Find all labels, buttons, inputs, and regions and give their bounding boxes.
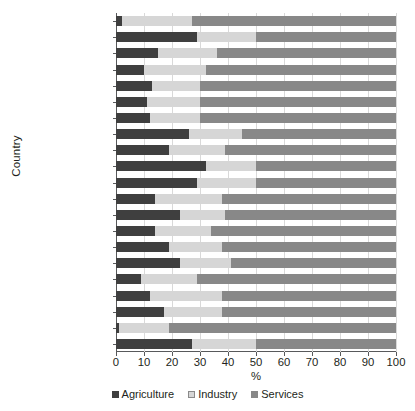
bar-row <box>116 161 396 171</box>
bar-segment-industry <box>197 178 256 188</box>
bar-segment-services <box>256 161 396 171</box>
legend-item-industry: Industry <box>188 388 237 400</box>
x-axis-tick-label: 100 <box>376 356 415 368</box>
bar-row <box>116 48 396 58</box>
bar-row <box>116 65 396 75</box>
bar-segment-services <box>256 178 396 188</box>
bar-segment-agriculture <box>116 145 169 155</box>
bar-row <box>116 16 396 26</box>
bar-row <box>116 97 396 107</box>
bar-segment-industry <box>122 16 192 26</box>
bar-segment-industry <box>192 339 256 349</box>
bar-segment-industry <box>169 145 225 155</box>
y-axis-tick <box>113 150 117 151</box>
y-axis-tick <box>113 86 117 87</box>
y-axis-tick <box>113 279 117 280</box>
y-axis-tick <box>113 183 117 184</box>
bar-segment-agriculture <box>116 226 155 236</box>
bar-segment-agriculture <box>116 65 144 75</box>
stacked-bar-chart: Country ArgentinaBoliviaBrazilChileColom… <box>0 0 415 411</box>
bar-segment-industry <box>180 210 225 220</box>
y-axis-tick <box>113 231 117 232</box>
y-axis-tick <box>113 21 117 22</box>
bar-segment-agriculture <box>116 129 189 139</box>
bar-row <box>116 226 396 236</box>
y-axis-tick <box>113 37 117 38</box>
y-axis-tick <box>113 328 117 329</box>
bar-segment-industry <box>155 194 222 204</box>
bar-row <box>116 307 396 317</box>
bar-row <box>116 339 396 349</box>
bar-segment-services <box>206 65 396 75</box>
bar-segment-agriculture <box>116 242 169 252</box>
bar-segment-services <box>231 258 396 268</box>
bar-segment-services <box>200 97 396 107</box>
y-axis-tick <box>113 344 117 345</box>
y-axis-tick <box>113 70 117 71</box>
bar-segment-agriculture <box>116 274 141 284</box>
bar-segment-services <box>222 307 396 317</box>
bar-row <box>116 323 396 333</box>
y-axis-tick <box>113 296 117 297</box>
bar-segment-services <box>200 113 396 123</box>
bar-segment-services <box>225 145 396 155</box>
bar-segment-services <box>256 339 396 349</box>
bar-segment-agriculture <box>116 291 150 301</box>
gridline <box>396 13 397 352</box>
bar-segment-industry <box>155 226 211 236</box>
bar-segment-agriculture <box>116 178 197 188</box>
y-axis-tick <box>113 118 117 119</box>
bar-row <box>116 291 396 301</box>
legend-swatch-services <box>251 391 258 398</box>
legend-item-services: Services <box>251 388 303 400</box>
bar-segment-industry <box>144 65 206 75</box>
y-axis-tick <box>113 166 117 167</box>
bar-segment-agriculture <box>116 210 180 220</box>
bar-segment-services <box>242 129 396 139</box>
bar-row <box>116 178 396 188</box>
y-axis-tick <box>113 53 117 54</box>
bar-segment-industry <box>152 81 200 91</box>
bar-segment-services <box>200 81 396 91</box>
legend-swatch-agriculture <box>112 391 119 398</box>
bar-segment-agriculture <box>116 307 164 317</box>
bar-segment-agriculture <box>116 339 192 349</box>
bar-row <box>116 242 396 252</box>
bar-row <box>116 258 396 268</box>
bar-segment-services <box>222 242 396 252</box>
y-axis-tick <box>113 134 117 135</box>
bar-segment-industry <box>180 258 230 268</box>
x-axis-title: % <box>116 370 396 382</box>
bar-segment-services <box>192 16 396 26</box>
bar-segment-services <box>211 226 396 236</box>
bar-segment-agriculture <box>116 194 155 204</box>
bar-row <box>116 113 396 123</box>
y-axis-tick <box>113 247 117 248</box>
bar-row <box>116 32 396 42</box>
bar-segment-industry <box>147 97 200 107</box>
bar-row <box>116 145 396 155</box>
y-axis-tick <box>113 215 117 216</box>
bar-segment-agriculture <box>116 81 152 91</box>
bar-segment-agriculture <box>116 48 158 58</box>
bar-rows: ArgentinaBoliviaBrazilChileColombiaCosta… <box>116 13 396 352</box>
bar-row <box>116 194 396 204</box>
legend-item-agriculture: Agriculture <box>112 388 175 400</box>
y-axis-title: Country <box>10 116 22 196</box>
bar-segment-industry <box>206 161 256 171</box>
bar-segment-industry <box>197 32 256 42</box>
chart-legend: Agriculture Industry Services <box>0 388 415 400</box>
bar-segment-services <box>256 32 396 42</box>
bar-segment-industry <box>150 291 223 301</box>
bar-segment-agriculture <box>116 32 197 42</box>
y-axis-tick <box>113 263 117 264</box>
bar-segment-services <box>169 323 396 333</box>
legend-label-services: Services <box>261 388 303 400</box>
bar-segment-industry <box>158 48 217 58</box>
bar-segment-industry <box>189 129 242 139</box>
bar-segment-agriculture <box>116 161 206 171</box>
bar-row <box>116 129 396 139</box>
legend-label-industry: Industry <box>198 388 237 400</box>
legend-label-agriculture: Agriculture <box>122 388 175 400</box>
legend-swatch-industry <box>188 391 195 398</box>
